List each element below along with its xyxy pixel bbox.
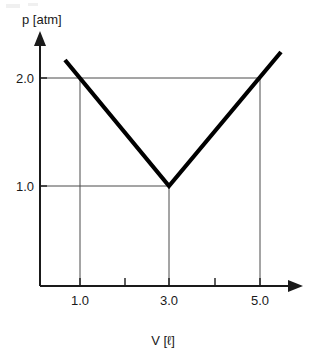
- y-axis-ticks: [40, 78, 47, 186]
- guide-lines: [40, 78, 260, 286]
- process-curve-path: [65, 52, 281, 186]
- pv-diagram-canvas: 2.0 1.0 1.0 3.0 5.0 p [atm] V [ℓ]: [0, 0, 320, 359]
- y-tick-label-1: 1.0: [16, 179, 34, 194]
- process-curve: [65, 52, 281, 186]
- pv-diagram-figure: 2.0 1.0 1.0 3.0 5.0 p [atm] V [ℓ]: [0, 0, 320, 359]
- x-tick-label-5: 5.0: [251, 293, 269, 308]
- x-tick-label-1: 1.0: [71, 293, 89, 308]
- y-tick-label-2: 2.0: [16, 71, 34, 86]
- y-axis-arrow-icon: [34, 31, 46, 46]
- x-axis-arrow-icon: [288, 280, 303, 292]
- x-axis-ticks: [80, 278, 260, 286]
- x-tick-label-3: 3.0: [160, 293, 178, 308]
- y-axis-title: p [atm]: [22, 12, 62, 27]
- x-axis-title: V [ℓ]: [151, 333, 175, 348]
